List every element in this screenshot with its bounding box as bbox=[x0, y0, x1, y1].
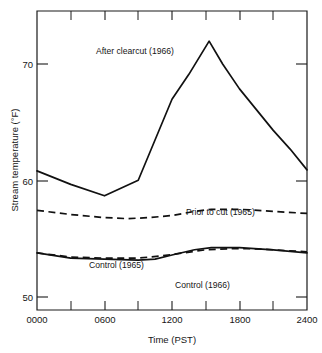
x-axis-title: Time (PST) bbox=[148, 334, 196, 345]
x-tick-label-1200: 1200 bbox=[161, 314, 182, 325]
y-tick-label-60: 60 bbox=[22, 176, 33, 187]
annotation-control-1965: Control (1965) bbox=[89, 260, 144, 270]
x-tick-label-0600: 0600 bbox=[94, 314, 115, 325]
x-tick-label-2400: 2400 bbox=[296, 314, 317, 325]
annotation-control-1966: Control (1966) bbox=[175, 280, 230, 290]
annotation-after-clearcut: After clearcut (1966) bbox=[96, 46, 174, 56]
x-tick-label-0000: 0000 bbox=[26, 314, 47, 325]
line-chart-svg: 70 60 50 0000 0600 1200 1800 bbox=[0, 0, 322, 353]
y-tick-label-70: 70 bbox=[22, 59, 33, 70]
x-tick-label-1800: 1800 bbox=[229, 314, 250, 325]
annotation-prior-to-cut: Prior to cut (1965) bbox=[186, 207, 255, 217]
y-tick-label-50: 50 bbox=[22, 292, 33, 303]
chart-figure: 70 60 50 0000 0600 1200 1800 bbox=[0, 0, 322, 353]
y-axis-title: Stream temperature (°F) bbox=[9, 108, 20, 211]
